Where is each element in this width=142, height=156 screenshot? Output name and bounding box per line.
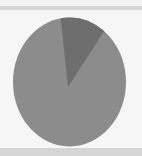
- pie-chart: [0, 0, 142, 156]
